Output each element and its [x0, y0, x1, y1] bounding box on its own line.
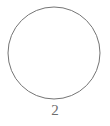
- circle-label: 2: [0, 102, 110, 118]
- figure-canvas: 2: [0, 0, 110, 126]
